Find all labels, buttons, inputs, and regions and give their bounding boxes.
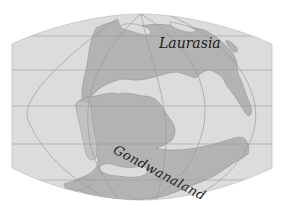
supercontinent-map bbox=[0, 0, 282, 206]
